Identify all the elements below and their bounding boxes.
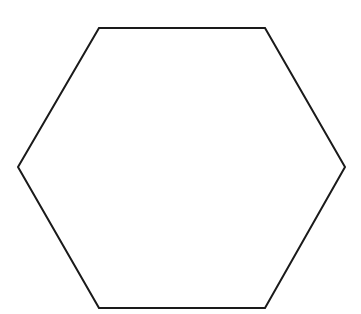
diagram-canvas [0, 0, 361, 314]
hexagon-outline [18, 28, 345, 308]
hexagon-diagram [0, 0, 361, 314]
